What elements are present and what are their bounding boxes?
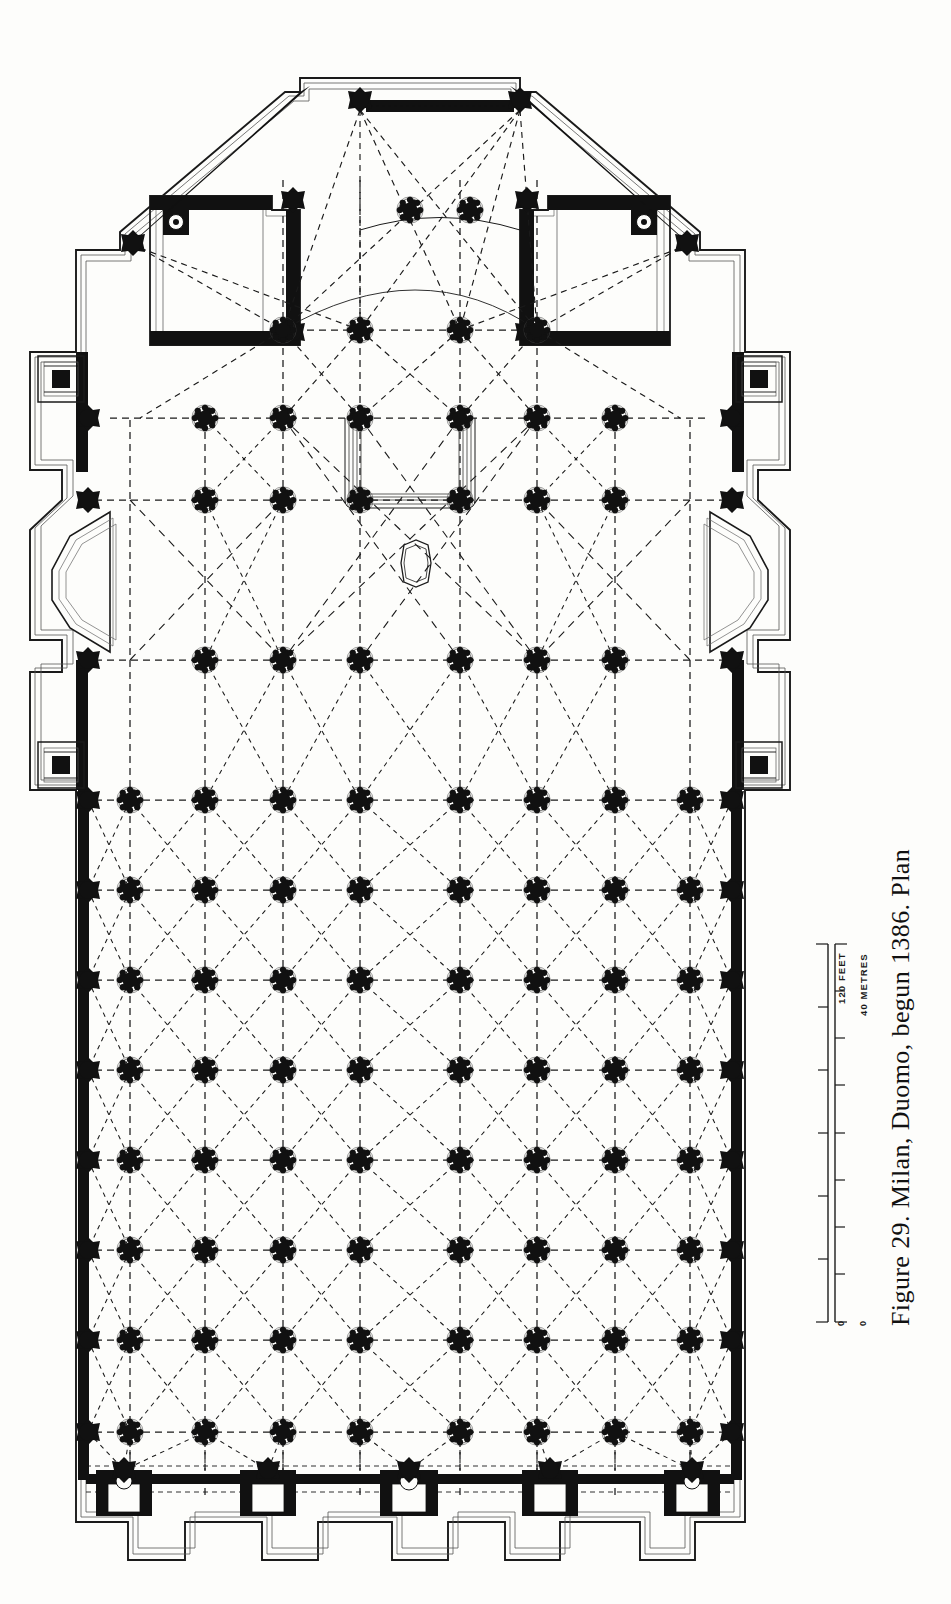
nave-pier — [447, 877, 474, 904]
vault-diagonal — [88, 1340, 130, 1432]
nave-pier — [347, 877, 374, 904]
apse-pier — [270, 317, 297, 344]
nave-pier — [677, 1237, 704, 1264]
nave-pier — [192, 1327, 219, 1354]
nave-pier — [677, 787, 704, 814]
nave-pier — [117, 877, 144, 904]
apse-pier — [347, 317, 374, 344]
vault-diagonal — [205, 500, 283, 660]
nave-pier — [524, 877, 551, 904]
nave-pier — [524, 967, 551, 994]
apse-pier — [524, 317, 551, 344]
nave-pier — [117, 1419, 144, 1446]
nave-pier — [192, 877, 219, 904]
nave-pier — [347, 787, 374, 814]
nave-pier — [602, 487, 629, 514]
nave-pier — [192, 1057, 219, 1084]
nave-pier — [602, 405, 629, 432]
nave-pier — [524, 1147, 551, 1174]
nave-pier — [270, 647, 297, 674]
nave-pier — [117, 967, 144, 994]
vault-diagonal — [690, 1340, 732, 1432]
octagonal-font — [401, 540, 431, 587]
nave-pier — [602, 1147, 629, 1174]
crossing-ribs — [130, 418, 690, 660]
scale-feet-label: 120 FEET — [836, 952, 847, 1004]
nave-pier — [117, 1327, 144, 1354]
nave-pier — [117, 787, 144, 814]
figure-caption: Figure 29. Milan, Duomo, begun 1386. Pla… — [886, 849, 916, 1326]
nave-pier — [192, 405, 219, 432]
nave-pier — [524, 1057, 551, 1084]
nave-pier — [270, 1147, 297, 1174]
vault-diagonal — [537, 500, 615, 660]
nave-pier — [524, 1237, 551, 1264]
nave-pier — [602, 1419, 629, 1446]
nave-pier — [447, 1419, 474, 1446]
nave-pier — [524, 787, 551, 814]
vault-diagonal — [690, 1340, 732, 1432]
nave-pier — [677, 1057, 704, 1084]
transept-chapel-left — [52, 512, 116, 652]
vault-diagonal — [88, 1340, 130, 1432]
vault-ribs — [95, 180, 725, 1500]
nave-pier — [347, 405, 374, 432]
nave-pier — [447, 487, 474, 514]
nave-pier — [677, 1147, 704, 1174]
nave-pier — [447, 1057, 474, 1084]
nave-pier — [602, 1327, 629, 1354]
nave-pier — [270, 787, 297, 814]
nave-pier — [347, 1327, 374, 1354]
nave-pier — [447, 787, 474, 814]
nave-pier — [677, 967, 704, 994]
nave-pier — [192, 1237, 219, 1264]
nave-pier — [270, 967, 297, 994]
nave-pier — [347, 1057, 374, 1084]
nave-pier — [192, 1419, 219, 1446]
vault-diagonal — [205, 500, 283, 660]
nave-pier — [270, 877, 297, 904]
scale-metres-label: 40 METRES — [858, 953, 869, 1016]
nave-pier — [347, 967, 374, 994]
cathedral-plan-drawing — [0, 0, 820, 1604]
nave-pier — [347, 647, 374, 674]
nave-pier — [602, 1237, 629, 1264]
transept-chapel-right — [704, 512, 768, 652]
scale-zero-feet-label: 0 — [836, 1320, 846, 1326]
outer-wall-outline — [30, 78, 790, 1560]
nave-pier — [677, 1419, 704, 1446]
nave-pier — [602, 787, 629, 814]
nave-pier — [602, 967, 629, 994]
nave-pier — [270, 1327, 297, 1354]
nave-pier — [524, 1419, 551, 1446]
nave-pier — [192, 787, 219, 814]
nave-pier — [447, 405, 474, 432]
nave-pier — [117, 1237, 144, 1264]
nave-pier — [677, 1327, 704, 1354]
wall-mass — [76, 86, 744, 1480]
nave-pier — [447, 1147, 474, 1174]
nave-pier — [270, 1419, 297, 1446]
nave-pier — [602, 647, 629, 674]
nave-pier — [117, 1057, 144, 1084]
nave-pier — [524, 487, 551, 514]
nave-pier — [192, 647, 219, 674]
nave-pier — [447, 967, 474, 994]
scale-bar: 120 FEET 40 METRES 0 0 — [806, 930, 866, 1330]
nave-pier — [270, 405, 297, 432]
figure-page: 120 FEET 40 METRES 0 0 Figure 29. Milan,… — [0, 0, 951, 1604]
vault-diagonal — [537, 500, 615, 660]
vault-diagonal — [205, 418, 283, 500]
nave-pier — [117, 1147, 144, 1174]
nave-pier — [270, 487, 297, 514]
plan-geometry — [30, 78, 790, 1560]
apse-pier — [447, 317, 474, 344]
nave-pier — [447, 1237, 474, 1264]
nave-pier — [677, 877, 704, 904]
nave-pier — [524, 1327, 551, 1354]
nave-pier — [347, 1419, 374, 1446]
nave-pier — [192, 967, 219, 994]
nave-pier — [447, 1327, 474, 1354]
apse-pier — [397, 197, 424, 224]
nave-pier — [270, 1237, 297, 1264]
